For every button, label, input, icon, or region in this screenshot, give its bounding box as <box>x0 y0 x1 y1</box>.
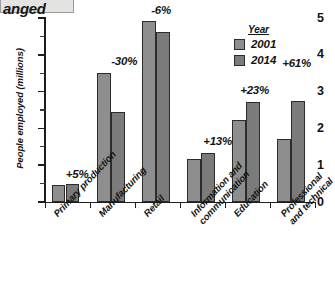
y-tick-mark <box>38 17 45 19</box>
y-tick-minor-mark <box>40 146 45 147</box>
x-tick-mark <box>270 202 271 208</box>
legend-rows: 20012014 <box>228 38 312 66</box>
percent-change-label: +23% <box>240 84 269 96</box>
y-tick-mark <box>38 91 45 93</box>
y-tick-label: 5 <box>288 12 324 25</box>
legend-swatch-2001 <box>234 39 245 50</box>
y-tick-label: 3 <box>288 85 324 98</box>
y-tick-minor-mark <box>40 73 45 74</box>
y-axis-label: People employed (millions) <box>14 29 25 189</box>
percent-change-label: +13% <box>203 135 232 147</box>
legend-label: 2014 <box>251 54 276 66</box>
x-tick-mark <box>135 202 136 208</box>
y-tick-minor-mark <box>40 183 45 184</box>
legend-item[interactable]: 2001 <box>234 38 312 50</box>
y-tick-mark <box>38 128 45 130</box>
y-tick-minor-mark <box>40 36 45 37</box>
x-tick-mark <box>90 202 91 208</box>
legend-item[interactable]: 2014 <box>234 54 312 66</box>
x-tick-mark <box>180 202 181 208</box>
legend-swatch-2014 <box>234 55 245 66</box>
bar-2014 <box>156 32 170 202</box>
percent-change-label: -6% <box>151 4 171 16</box>
bar-2001 <box>277 139 291 202</box>
bar-2001 <box>97 73 111 202</box>
legend: Year 20012014 <box>228 24 312 70</box>
bar-2001 <box>187 159 201 202</box>
percent-change-label: -30% <box>111 55 137 67</box>
x-tick-mark <box>45 202 46 208</box>
legend-title: Year <box>248 24 312 35</box>
legend-label: 2001 <box>251 38 276 50</box>
y-tick-mark <box>38 164 45 166</box>
y-tick-mark <box>38 54 45 56</box>
y-tick-minor-mark <box>40 109 45 110</box>
y-tick-mark <box>38 201 45 203</box>
